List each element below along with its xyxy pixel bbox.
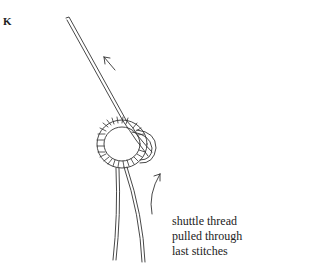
stitch-ring-icon: [97, 117, 156, 168]
caption-line: shuttle thread: [172, 214, 242, 229]
thread-icon: [113, 167, 145, 262]
arrow-up-left-icon: [104, 57, 115, 70]
caption: shuttle thread pulled through last stitc…: [172, 214, 242, 259]
caption-line: pulled through: [172, 229, 242, 244]
arrow-curved-up-icon: [151, 174, 160, 214]
caption-line: last stitches: [172, 244, 242, 259]
